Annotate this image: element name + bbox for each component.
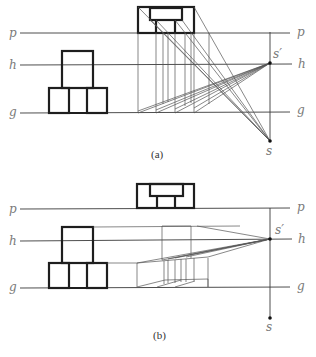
- label-g-right: g: [297, 279, 305, 293]
- station-point-dot: [268, 316, 272, 320]
- label-g-right: g: [297, 103, 305, 117]
- perspective-diagram: p h g p h g s′ s: [0, 0, 316, 357]
- label-g-left: g: [9, 280, 17, 294]
- elevation-b: [49, 227, 107, 288]
- station-point-dot: [268, 139, 272, 143]
- caption-b: (b): [153, 329, 166, 342]
- vanishing-point-dot: [268, 61, 272, 65]
- label-h-left: h: [9, 234, 17, 248]
- panel-b: p h g p h g s′ s: [9, 184, 306, 342]
- vanishing-lines-b: [137, 239, 270, 263]
- label-p-right: p: [297, 25, 305, 39]
- plan-a: [138, 7, 194, 33]
- label-vanishing-point: s′: [273, 47, 282, 61]
- horizon-line-h: [20, 239, 292, 241]
- label-h-left: h: [9, 58, 17, 72]
- label-p-right: p: [297, 200, 305, 214]
- sight-lines-a: [138, 7, 270, 141]
- vanishing-point-dot: [268, 237, 272, 241]
- elevation-a: [49, 51, 107, 113]
- label-g-left: g: [9, 105, 17, 119]
- label-station-point: s: [266, 320, 272, 334]
- panel-a: p h g p h g s′ s: [9, 7, 306, 161]
- label-p-left: p: [9, 26, 17, 40]
- label-p-left: p: [9, 202, 17, 216]
- label-station-point: s: [266, 144, 272, 158]
- perspective-box-b: [137, 226, 270, 287]
- plan-b: [137, 184, 194, 208]
- label-h-right: h: [298, 57, 306, 71]
- label-h-right: h: [298, 232, 306, 246]
- caption-a: (a): [151, 148, 164, 161]
- label-vanishing-point: s′: [275, 223, 284, 237]
